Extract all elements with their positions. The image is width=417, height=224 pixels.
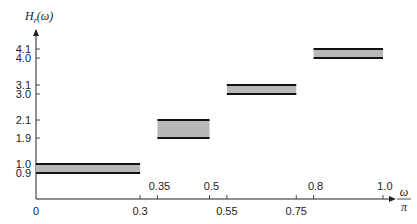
x-tick-label-top-1: 0.5 bbox=[204, 180, 219, 192]
x-tick-label-top-0: 0.35 bbox=[149, 180, 170, 192]
band-0 bbox=[36, 164, 140, 173]
band-1 bbox=[157, 120, 209, 138]
x-tick-label-top-2: 0.8 bbox=[308, 180, 323, 192]
tolerance-bands bbox=[36, 49, 383, 173]
x-tick-label-bottom-3: 0.75 bbox=[286, 205, 307, 217]
y-tick-label-7: 4.1 bbox=[16, 43, 31, 55]
x-axis-title-denominator: π bbox=[401, 200, 408, 214]
chart: 0.91.01.92.13.03.14.04.100.30.550.750.35… bbox=[0, 0, 417, 224]
x-axis-arrow-icon bbox=[389, 196, 396, 202]
y-axis-arrow-icon bbox=[33, 29, 39, 36]
band-2 bbox=[227, 85, 296, 94]
x-tick-label-top-3: 1.0 bbox=[377, 180, 392, 192]
x-tick-label-bottom-2: 0.55 bbox=[216, 205, 237, 217]
y-tick-label-1: 1.0 bbox=[16, 158, 31, 170]
band-3 bbox=[314, 49, 383, 58]
y-tick-label-2: 1.9 bbox=[16, 132, 31, 144]
x-tick-label-bottom-1: 0.3 bbox=[132, 205, 147, 217]
x-axis-title-numerator: ω bbox=[400, 185, 408, 199]
x-tick-label-bottom-0: 0 bbox=[33, 205, 39, 217]
y-axis-title: Hr(ω) bbox=[24, 9, 53, 25]
y-tick-label-3: 2.1 bbox=[16, 114, 31, 126]
y-tick-label-5: 3.1 bbox=[16, 79, 31, 91]
